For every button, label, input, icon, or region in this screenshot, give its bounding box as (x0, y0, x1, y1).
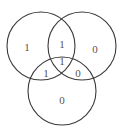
circle-bottom (28, 57, 96, 125)
region-left-only: 1 (24, 41, 30, 53)
region-left-right: 1 (59, 38, 65, 50)
region-all-three: 1 (59, 55, 65, 67)
venn-diagram: 1 0 1 1 1 0 0 (0, 0, 125, 131)
region-right-only: 0 (92, 43, 98, 55)
circle-top-left (7, 12, 75, 80)
region-left-bottom: 1 (43, 67, 49, 79)
region-bottom-only: 0 (59, 94, 65, 106)
circle-top-right (48, 12, 116, 80)
region-right-bottom: 0 (75, 67, 81, 79)
